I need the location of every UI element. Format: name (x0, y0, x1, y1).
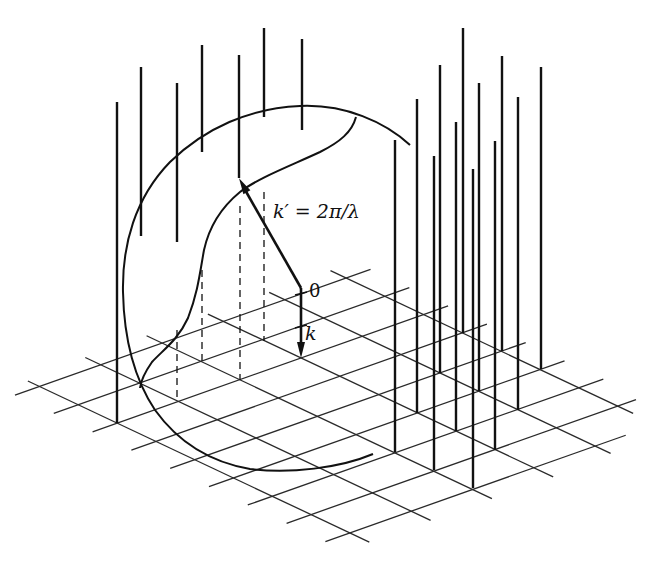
grid-line (287, 400, 636, 524)
reciprocal-lattice-grid (15, 269, 636, 542)
reciprocal-lattice-rods (117, 28, 541, 488)
k-label: k (305, 322, 317, 344)
k-prime-label: k′ = 2π/λ (273, 200, 360, 222)
grid-line (325, 435, 625, 541)
grid-line (85, 357, 430, 520)
grid-line (54, 288, 410, 414)
grid-line (248, 379, 604, 505)
grid-line (209, 361, 565, 487)
k-arrowhead-icon (297, 342, 305, 358)
ewald-sphere-diagram (0, 0, 660, 573)
origin-label: 0 (309, 280, 320, 301)
k-prime-vector (239, 178, 301, 288)
